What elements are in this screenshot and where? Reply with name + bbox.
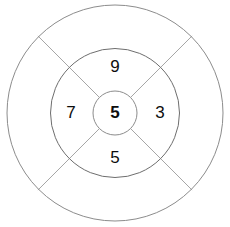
puzzle-canvas: 9 7 3 5 5 [0, 0, 230, 227]
ring-value-left: 7 [66, 103, 75, 122]
ring-value-bottom: 5 [110, 148, 119, 167]
circular-puzzle-figure: 9 7 3 5 5 [0, 0, 230, 227]
ring-value-right: 3 [155, 103, 164, 122]
ring-value-top: 9 [110, 57, 119, 76]
center-value: 5 [110, 103, 119, 122]
